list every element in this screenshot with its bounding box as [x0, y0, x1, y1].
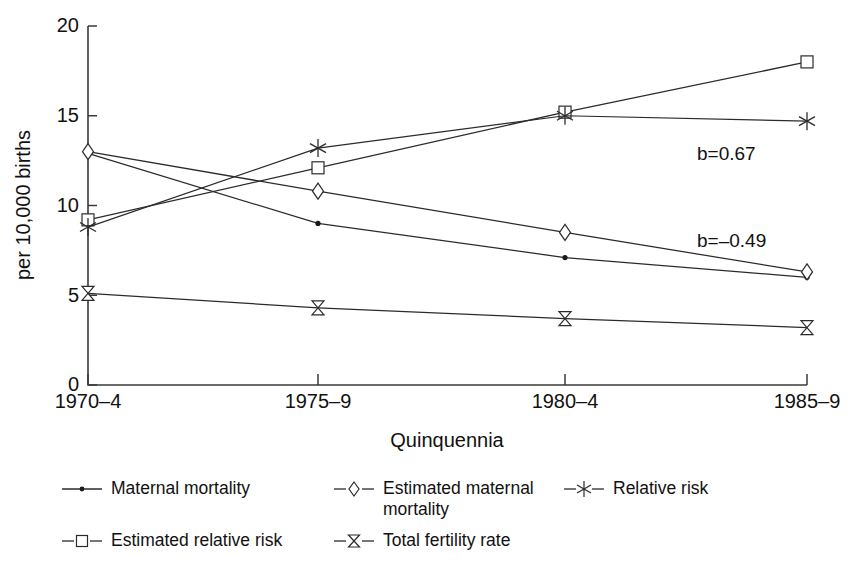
asterisk-marker-icon: [562, 479, 606, 504]
legend-label-maternal-mortality: Maternal mortality: [111, 478, 250, 499]
dot-marker-icon: [60, 479, 104, 504]
data-point-marker: [315, 221, 320, 226]
series-estimated-relative-risk: [82, 56, 813, 226]
chart-legend: Maternal mortality Estimated maternal mo…: [60, 478, 820, 556]
data-point-marker: [83, 144, 94, 160]
data-point-marker: [562, 255, 567, 260]
series-total-fertility-rate: [82, 286, 813, 334]
legend-item-estimated-maternal-mortality[interactable]: Estimated maternal mortality: [332, 478, 562, 521]
series-polyline: [88, 293, 807, 327]
hourglass-marker-icon: [332, 531, 376, 556]
x-tick-label: 1980–4: [532, 390, 599, 412]
axis-lines: [88, 26, 807, 385]
x-axis-ticks: 1970–41975–91980–41985–9: [55, 374, 841, 412]
data-point-marker: [801, 56, 813, 68]
series-polyline: [88, 152, 807, 272]
series-polyline: [88, 116, 807, 227]
y-axis-title: per 10,000 births: [12, 130, 34, 280]
diamond-marker-icon: [332, 479, 376, 504]
legend-item-maternal-mortality[interactable]: Maternal mortality: [60, 478, 332, 504]
series-polyline: [88, 153, 807, 277]
y-tick-label: 5: [68, 284, 79, 306]
legend-row-2: Estimated relative risk Total fertility …: [60, 530, 820, 556]
legend-label-relative-risk: Relative risk: [613, 478, 708, 499]
legend-label-total-fertility-rate: Total fertility rate: [383, 530, 510, 551]
data-point-marker: [313, 183, 324, 199]
chart-figure: 05101520 1970–41975–91980–41985–9 b=0.67…: [0, 0, 852, 571]
data-point-marker: [312, 162, 324, 174]
data-point-marker: [560, 224, 571, 240]
legend-label-estimated-relative-risk: Estimated relative risk: [111, 530, 282, 551]
series-polyline: [88, 62, 807, 220]
legend-label-estimated-maternal-mortality: Estimated maternal mortality: [383, 478, 534, 521]
chart-annotation: b=0.67: [697, 143, 756, 164]
series-relative-risk: [80, 107, 815, 236]
chart-annotation: b=–0.49: [697, 230, 766, 251]
y-tick-label: 20: [57, 14, 79, 36]
x-tick-label: 1970–4: [55, 390, 122, 412]
legend-item-relative-risk[interactable]: Relative risk: [562, 478, 708, 504]
x-tick-label: 1975–9: [285, 390, 352, 412]
data-point-marker: [310, 139, 326, 157]
y-tick-label: 10: [57, 194, 79, 216]
legend-item-estimated-relative-risk[interactable]: Estimated relative risk: [60, 530, 332, 556]
y-axis-ticks: 05101520: [57, 14, 97, 395]
chart-series-group: [80, 56, 815, 335]
legend-item-total-fertility-rate[interactable]: Total fertility rate: [332, 530, 562, 556]
series-estimated-maternal-mortality: [83, 144, 813, 280]
chart-annotations: b=0.67b=–0.49: [697, 143, 766, 251]
square-marker-icon: [60, 531, 104, 556]
x-tick-label: 1985–9: [774, 390, 841, 412]
x-axis-title: Quinquennia: [390, 429, 504, 451]
y-tick-label: 15: [57, 104, 79, 126]
legend-row-1: Maternal mortality Estimated maternal mo…: [60, 478, 820, 521]
